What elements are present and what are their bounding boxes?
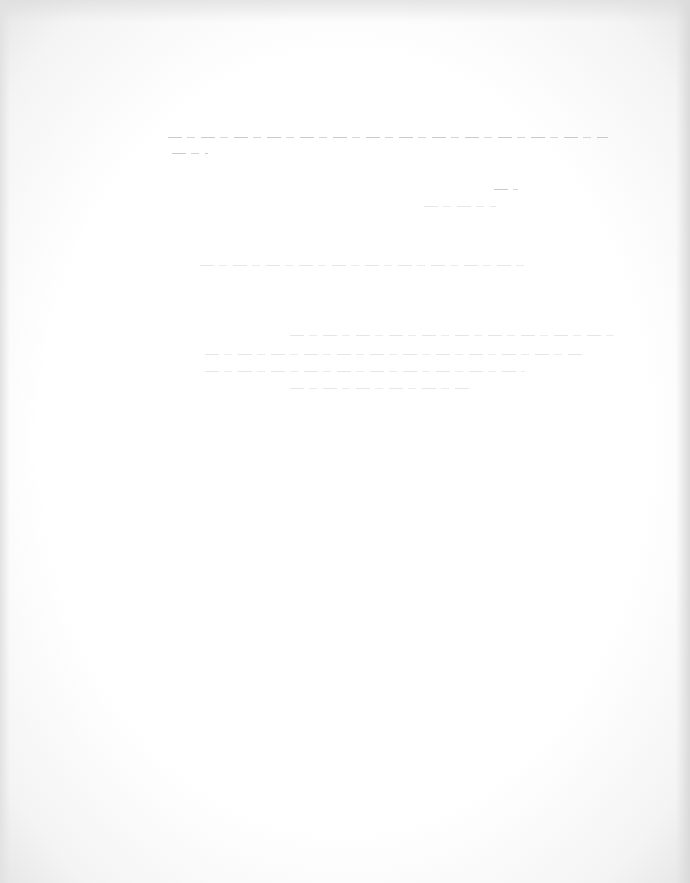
faded-text-line xyxy=(424,206,496,207)
faded-text-line xyxy=(205,371,525,372)
page-left-edge-shadow xyxy=(0,0,10,883)
page-right-edge-shadow xyxy=(676,0,690,883)
page-top-edge-shadow xyxy=(0,0,690,22)
faded-text-line xyxy=(172,153,208,154)
scanned-page xyxy=(0,0,690,883)
faded-text-line xyxy=(494,189,518,190)
faded-text-line xyxy=(168,137,608,138)
faded-text-line xyxy=(290,335,620,336)
faded-text-line xyxy=(290,388,470,389)
faded-text-line xyxy=(205,354,585,355)
faded-text-line xyxy=(200,265,530,266)
